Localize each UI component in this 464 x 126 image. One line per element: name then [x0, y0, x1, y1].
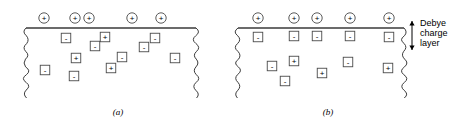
layer-ion-b-4-symbol: - — [388, 33, 391, 42]
interior-ion-b-0-symbol: + — [292, 57, 297, 66]
debye-label-line-2: layer — [420, 38, 440, 48]
panel-a: +++++-+---+--+--(a) — [23, 13, 198, 117]
left-broken-edge-b — [235, 28, 240, 98]
panel-b: +++++-----+--++-(b) — [235, 13, 407, 117]
interior-ion-a-2-symbol: - — [154, 34, 157, 43]
right-broken-edge-b — [402, 28, 407, 98]
interior-ion-a-9-symbol: - — [44, 66, 47, 75]
left-broken-edge-a — [23, 28, 28, 98]
layer-ion-b-0-symbol: - — [257, 33, 260, 42]
layer-ion-b-2-symbol: - — [316, 32, 319, 41]
layer-ion-b-3-symbol: - — [349, 32, 352, 41]
surface-charge-symbol-a-3: + — [130, 14, 135, 23]
surface-charge-symbol-b-3: + — [348, 14, 353, 23]
interior-ion-b-5-symbol: - — [284, 77, 287, 86]
interior-ion-a-1-symbol: + — [103, 33, 108, 42]
debye-label-line-1: charge — [420, 28, 448, 38]
interior-ion-a-10-symbol: - — [73, 72, 76, 81]
panel-caption-a: (a) — [113, 107, 124, 117]
surface-charge-symbol-b-4: + — [387, 14, 392, 23]
debye-charge-layer-figure: +++++-+---+--+--(a)+++++-----+--++-(b)De… — [0, 0, 464, 126]
layer-ion-b-1-symbol: - — [293, 32, 296, 41]
figure-canvas: +++++-+---+--+--(a)+++++-----+--++-(b)De… — [0, 0, 464, 126]
interior-ion-a-8-symbol: + — [109, 64, 114, 73]
surface-charge-symbol-b-1: + — [292, 14, 297, 23]
right-broken-edge-a — [193, 28, 198, 98]
interior-ion-a-5-symbol: + — [74, 54, 79, 63]
debye-layer-annotation: Debyechargelayer — [409, 18, 447, 50]
surface-charge-symbol-b-2: + — [315, 14, 320, 23]
panel-caption-b: (b) — [323, 107, 334, 117]
surface-charge-symbol-a-2: + — [87, 14, 92, 23]
debye-arrow-head-down — [409, 46, 414, 50]
surface-charge-symbol-a-4: + — [159, 14, 164, 23]
interior-ion-a-7-symbol: - — [174, 54, 177, 63]
surface-charge-symbol-a-0: + — [42, 14, 47, 23]
interior-ion-b-1-symbol: - — [271, 62, 274, 71]
interior-ion-b-4-symbol: + — [320, 69, 325, 78]
interior-ion-b-3-symbol: + — [386, 64, 391, 73]
debye-label-line-0: Debye — [420, 18, 446, 28]
interior-ion-a-0-symbol: - — [65, 34, 68, 43]
interior-ion-b-2-symbol: - — [347, 58, 350, 67]
debye-arrow-head-up — [409, 21, 414, 25]
surface-charge-symbol-a-1: + — [73, 14, 78, 23]
surface-charge-symbol-b-0: + — [256, 14, 261, 23]
interior-ion-a-6-symbol: - — [121, 53, 124, 62]
interior-ion-a-3-symbol: - — [94, 42, 97, 51]
interior-ion-a-4-symbol: - — [143, 43, 146, 52]
